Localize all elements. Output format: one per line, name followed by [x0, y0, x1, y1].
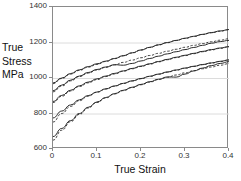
- y-tick-mark: [49, 77, 52, 78]
- x-axis-label: True Strain: [52, 163, 228, 175]
- y-tick-mark: [49, 42, 52, 43]
- x-tick-mark: [184, 148, 185, 151]
- x-tick-label: 0: [40, 151, 64, 160]
- x-tick-mark: [140, 148, 141, 151]
- y-axis-label-line-2: Stress: [2, 55, 50, 69]
- curve-6: [53, 47, 229, 103]
- plot-area: [52, 6, 228, 148]
- y-tick-mark: [49, 113, 52, 114]
- curve-3: [53, 40, 229, 90]
- x-tick-label: 0.2: [128, 151, 152, 160]
- y-tick-label: 800: [21, 108, 47, 117]
- curve-4: [53, 39, 229, 92]
- x-tick-mark: [96, 148, 97, 151]
- x-tick-label: 0.3: [172, 151, 196, 160]
- y-tick-mark: [49, 6, 52, 7]
- x-tick-mark: [228, 148, 229, 151]
- y-tick-label: 1200: [21, 37, 47, 46]
- y-tick-label: 1400: [21, 1, 47, 10]
- y-tick-label: 1000: [21, 72, 47, 81]
- chart-figure: True Stress MPa True Strain 600800100012…: [0, 0, 241, 181]
- data-curves: [53, 7, 229, 149]
- curve-10: [53, 64, 229, 141]
- x-tick-label: 0.1: [84, 151, 108, 160]
- x-tick-mark: [52, 148, 53, 151]
- curve-1: [53, 30, 229, 83]
- curve-9: [53, 62, 229, 137]
- x-tick-label: 0.4: [216, 151, 240, 160]
- curve-5: [53, 47, 229, 102]
